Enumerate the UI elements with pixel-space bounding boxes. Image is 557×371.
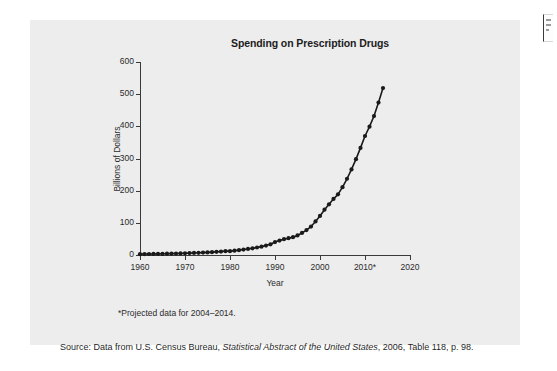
data-point [358, 146, 362, 150]
data-point [354, 157, 358, 161]
data-point [246, 247, 250, 251]
data-point [160, 252, 164, 256]
data-point [300, 231, 304, 235]
data-point [282, 237, 286, 241]
data-point [327, 202, 331, 206]
data-point [237, 248, 241, 252]
x-tick-label: 1970 [176, 262, 195, 272]
data-point [250, 246, 254, 250]
data-point [210, 250, 214, 254]
x-tick-label: 1990 [266, 262, 285, 272]
data-point [165, 252, 169, 256]
source-suffix: , 2006, Table 118, p. 98. [378, 342, 474, 352]
data-point [268, 242, 272, 246]
x-tick-label: 2010* [354, 262, 376, 272]
data-point [196, 251, 200, 255]
data-point [259, 245, 263, 249]
data-point [232, 249, 236, 253]
x-tick-mark [230, 255, 231, 260]
data-point [376, 100, 380, 104]
figure-panel: Spending on Prescription Drugs 010020030… [30, 20, 520, 345]
y-tick-label: 600 [100, 56, 134, 66]
source-prefix: Source: Data from U.S. Census Bureau, [60, 342, 223, 352]
y-axis-label: Billions of Dollars [112, 126, 122, 191]
data-point [309, 224, 313, 228]
data-point [304, 228, 308, 232]
data-point [286, 236, 290, 240]
data-point [318, 214, 322, 218]
data-point [322, 208, 326, 212]
page-edge-marker-bar [546, 29, 549, 31]
data-point [241, 247, 245, 251]
data-point [201, 251, 205, 255]
data-point [349, 167, 353, 171]
x-tick-mark [320, 255, 321, 260]
page-edge-marker [543, 14, 553, 42]
x-tick-mark [275, 255, 276, 260]
data-point [138, 252, 142, 256]
x-tick-mark [365, 255, 366, 260]
x-tick-label: 2020 [401, 262, 420, 272]
data-point [156, 252, 160, 256]
chart-title: Spending on Prescription Drugs [140, 37, 480, 49]
page-edge-marker-bar [546, 19, 551, 21]
data-point [313, 219, 317, 223]
data-point [363, 134, 367, 138]
x-axis-label: Year [140, 278, 410, 288]
data-point [178, 251, 182, 255]
page-edge-marker-bar [546, 24, 551, 26]
data-point [345, 177, 349, 181]
data-point [187, 251, 191, 255]
x-tick-label: 1960 [131, 262, 150, 272]
data-point [223, 249, 227, 253]
data-point [214, 250, 218, 254]
data-point [295, 233, 299, 237]
x-tick-label: 1980 [221, 262, 240, 272]
data-point [151, 252, 155, 256]
footnote-projected-data: *Projected data for 2004–2014. [118, 308, 236, 318]
data-point [372, 114, 376, 118]
data-point [277, 238, 281, 242]
data-point [147, 252, 151, 256]
data-series-spending [140, 62, 410, 255]
data-point [169, 252, 173, 256]
series-line [140, 88, 383, 254]
y-tick-label: 0 [100, 249, 134, 259]
data-point [381, 86, 385, 90]
data-point [219, 249, 223, 253]
data-point [228, 249, 232, 253]
data-point [192, 251, 196, 255]
data-point [174, 251, 178, 255]
series-markers [138, 86, 385, 256]
data-point [340, 185, 344, 189]
plot-area: 0100200300400500600 19601970198019902000… [140, 62, 410, 255]
data-point [273, 240, 277, 244]
y-tick-label: 500 [100, 88, 134, 98]
x-tick-label: 2000 [311, 262, 330, 272]
data-point [291, 235, 295, 239]
x-tick-mark [185, 255, 186, 260]
source-note: Source: Data from U.S. Census Bureau, St… [60, 342, 557, 354]
data-point [331, 197, 335, 201]
data-point [264, 243, 268, 247]
data-point [336, 192, 340, 196]
data-point [183, 251, 187, 255]
data-point [142, 252, 146, 256]
source-publication-title: Statistical Abstract of the United State… [223, 342, 378, 352]
data-point [367, 125, 371, 129]
data-point [205, 250, 209, 254]
y-tick-label: 100 [100, 217, 134, 227]
x-tick-mark [410, 255, 411, 260]
data-point [255, 245, 259, 249]
